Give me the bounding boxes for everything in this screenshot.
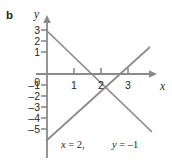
x-axis-arrowhead [149, 70, 157, 78]
x-tick-label-3: 3 [122, 80, 134, 91]
y-tick-label-neg1: –1 [20, 80, 40, 91]
x-tick-label-1: 1 [68, 80, 80, 91]
solution-y-variable: y [112, 139, 117, 150]
y-axis-label: y [34, 9, 39, 21]
y-tick-label-2: 2 [24, 36, 40, 47]
y-tick-label-neg3: –3 [20, 102, 40, 113]
solution-x-variable: x [61, 139, 66, 150]
solution-x: x = 2, [61, 140, 85, 151]
graph-figure: b y x 3 [0, 0, 172, 161]
solution-x-value: = 2, [68, 139, 84, 150]
solution-y-value: = –1 [119, 139, 138, 150]
y-tick-label-3: 3 [24, 25, 40, 36]
x-tick-label-2: 2 [95, 80, 107, 91]
y-tick-label-neg2: –2 [20, 91, 40, 102]
y-axis-arrowhead [43, 15, 51, 23]
y-tick-label-neg4: –4 [20, 113, 40, 124]
ascending-line [46, 47, 150, 141]
y-tick-label-1: 1 [24, 47, 40, 58]
solution-y: y = –1 [112, 140, 138, 151]
x-axis-label: x [160, 81, 165, 93]
y-tick-label-neg5: –5 [20, 124, 40, 135]
